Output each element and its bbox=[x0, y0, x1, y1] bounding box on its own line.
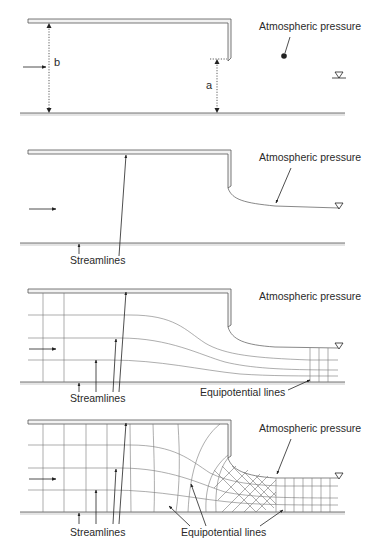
equipotential-lines-label: Equipotential lines bbox=[181, 526, 266, 538]
equipotential-line bbox=[176, 424, 179, 512]
panel-streamlines-sketch: Atmospheric pressure Streamlines Equipot… bbox=[20, 289, 361, 404]
streamlines-label: Streamlines bbox=[70, 526, 125, 538]
equipotential-lines-pointer bbox=[169, 506, 190, 526]
streamline bbox=[28, 445, 338, 486]
equipotential-line bbox=[153, 424, 154, 512]
equipotential-lines bbox=[43, 424, 330, 512]
streamline bbox=[28, 338, 338, 370]
equipotential-lines-pointer bbox=[191, 484, 206, 526]
streamlines-pointer-top bbox=[119, 155, 126, 256]
sluice-gate bbox=[28, 420, 231, 458]
streamline bbox=[28, 315, 338, 360]
mesh-diagonal bbox=[232, 466, 274, 508]
streamlines bbox=[28, 315, 338, 376]
atmospheric-pressure-label: Atmospheric pressure bbox=[259, 20, 361, 32]
panel-boundary-streamlines: Atmospheric pressure Streamlines bbox=[20, 150, 361, 266]
mesh-diagonal bbox=[244, 472, 276, 504]
atmospheric-pressure-label: Atmospheric pressure bbox=[259, 151, 361, 163]
water-surface-symbol-icon bbox=[332, 72, 346, 78]
dimension-b-bottom-arrow-icon bbox=[47, 108, 52, 113]
streamline bbox=[28, 360, 338, 376]
streamlines-label: Streamlines bbox=[70, 254, 125, 266]
streamline bbox=[28, 468, 338, 498]
dimension-a-top-arrow-icon bbox=[215, 59, 220, 64]
dimension-a-bottom-arrow-icon bbox=[215, 108, 220, 113]
channel-bed-shade bbox=[20, 382, 345, 385]
pressure-point-icon bbox=[281, 53, 287, 59]
equipotential-lines bbox=[43, 293, 328, 382]
streamlines-pointer bbox=[113, 469, 116, 524]
equipotential-line bbox=[206, 455, 228, 512]
panel-definition: b a Atmospheric pressure bbox=[20, 19, 361, 116]
atmospheric-pressure-pointer bbox=[277, 439, 291, 474]
dimension-a-label: a bbox=[206, 79, 213, 91]
atmospheric-pressure-label: Atmospheric pressure bbox=[259, 422, 361, 434]
streamlines-label: Streamlines bbox=[70, 392, 125, 404]
streamlines bbox=[28, 445, 338, 505]
atmospheric-pressure-leader bbox=[285, 37, 290, 53]
mesh-diagonal bbox=[214, 470, 256, 512]
flow-under-sluice-gate-diagram: b a Atmospheric pressure Atmospheric pre… bbox=[0, 0, 379, 553]
free-surface-streamline bbox=[228, 458, 338, 478]
free-surface-streamline bbox=[228, 188, 339, 208]
streamlines-pointer bbox=[119, 292, 126, 392]
panel-flow-net: Atmospheric pressure Streamlines Equipot… bbox=[20, 420, 361, 538]
dimension-b-label: b bbox=[54, 56, 60, 68]
dimension-b-top-arrow-icon bbox=[47, 23, 52, 28]
equipotential-lines-label: Equipotential lines bbox=[200, 386, 285, 398]
sluice-gate bbox=[28, 19, 231, 61]
atmospheric-pressure-pointer bbox=[276, 168, 291, 203]
free-surface-streamline bbox=[228, 327, 338, 348]
mesh-diagonal bbox=[256, 492, 276, 512]
mesh-diagonal bbox=[218, 470, 248, 500]
streamlines-pointer bbox=[119, 423, 126, 524]
sluice-gate bbox=[28, 150, 231, 188]
atmospheric-pressure-label: Atmospheric pressure bbox=[259, 290, 361, 302]
sluice-gate bbox=[28, 289, 231, 327]
